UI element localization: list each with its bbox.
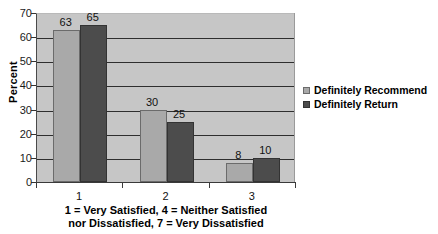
y-tick-label: 10 (10, 153, 32, 164)
y-tick-label: 60 (10, 32, 32, 43)
legend-item-label: Definitely Recommend (314, 84, 427, 96)
bar-1-series-2 (80, 25, 107, 182)
legend-swatch-icon (303, 101, 310, 108)
x-tick-mark (36, 183, 37, 188)
plot-right-edge (294, 13, 295, 182)
x-category-label: 3 (232, 190, 272, 202)
bar-2-series-2 (167, 122, 194, 182)
x-category-label: 2 (146, 190, 186, 202)
bar-value-label: 65 (73, 12, 112, 23)
legend-item-label: Definitely Return (314, 98, 398, 110)
y-tick-label: 20 (10, 129, 32, 140)
legend: Definitely RecommendDefinitely Return (303, 84, 435, 112)
bar-value-label: 30 (133, 97, 172, 108)
y-axis-tick-labels: 706050403020100 (8, 0, 32, 234)
x-axis-caption-line-1: 1 = Very Satisfied, 4 = Neither Satisfie… (30, 204, 302, 217)
bar-chart: Percent 706050403020100 123 63653025810 … (0, 0, 438, 234)
legend-item-1[interactable]: Definitely Recommend (303, 84, 435, 96)
y-tick-label: 50 (10, 56, 32, 67)
x-tick-mark (295, 183, 296, 188)
bar-1-series-1 (53, 30, 80, 182)
legend-item-2[interactable]: Definitely Return (303, 98, 435, 110)
x-category-label: 1 (59, 190, 99, 202)
y-tick-label: 40 (10, 80, 32, 91)
bar-3-series-1 (226, 163, 253, 182)
x-axis-line (36, 182, 296, 183)
bar-3-series-2 (253, 158, 280, 182)
legend-swatch-icon (303, 87, 310, 94)
x-tick-mark (209, 183, 210, 188)
y-tick-label: 30 (10, 105, 32, 116)
y-tick-label: 70 (10, 8, 32, 19)
bar-value-label: 10 (246, 145, 285, 156)
x-axis-caption: 1 = Very Satisfied, 4 = Neither Satisfie… (30, 204, 302, 230)
bar-value-label: 25 (160, 109, 199, 120)
x-tick-mark (122, 183, 123, 188)
y-tick-label: 0 (10, 177, 32, 188)
bar-2-series-1 (140, 110, 167, 182)
x-axis-caption-line-2: nor Dissatisfied, 7 = Very Dissatisfied (30, 217, 302, 230)
